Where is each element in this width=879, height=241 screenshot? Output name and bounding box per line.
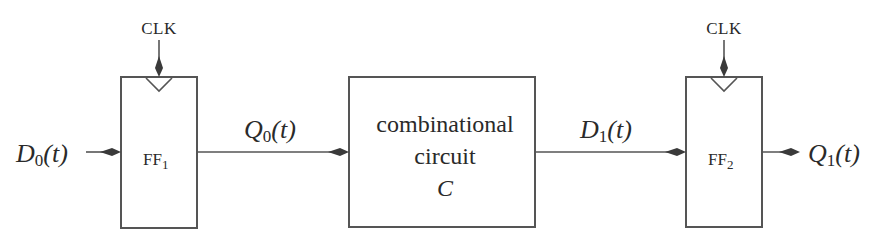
- signal-q1-output: Q1(t): [762, 139, 860, 170]
- q0-label: Q0(t): [244, 115, 296, 146]
- ff1-clk-arrow-icon: [155, 56, 163, 77]
- combinational-circuit: combinational circuit C: [349, 77, 535, 227]
- d1-label: D1(t): [579, 115, 632, 146]
- signal-d0-input: D0(t): [15, 139, 121, 170]
- sequential-circuit-diagram: FF1 CLK combinational circuit C FF2 CLK …: [0, 0, 879, 241]
- ff2-clk-label: CLK: [706, 19, 742, 38]
- d0-arrow-icon: [100, 148, 121, 156]
- ff2-clk-arrow-icon: [720, 56, 728, 77]
- q1-arrow-icon: [779, 148, 800, 156]
- comb-label-line1: combinational: [376, 111, 514, 137]
- ff1-clk-label: CLK: [141, 19, 177, 38]
- ff2-clock-input: CLK: [706, 19, 742, 77]
- signal-q0: Q0(t): [197, 115, 349, 156]
- flip-flop-1: FF1: [121, 77, 197, 228]
- flip-flop-2: FF2: [686, 77, 762, 227]
- comb-label-line2: circuit: [414, 143, 476, 169]
- q1-label: Q1(t): [808, 139, 860, 170]
- ff1-clock-input: CLK: [141, 19, 177, 77]
- d1-arrow-icon: [665, 148, 686, 156]
- q0-arrow-icon: [328, 148, 349, 156]
- signal-d1: D1(t): [535, 115, 686, 156]
- comb-label-line3: C: [437, 175, 454, 201]
- d0-label: D0(t): [15, 139, 68, 170]
